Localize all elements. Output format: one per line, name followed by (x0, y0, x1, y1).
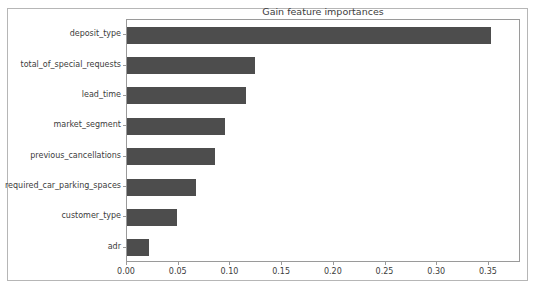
x-tick-label-0.30: 0.30 (416, 266, 456, 278)
x-tick-mark (333, 262, 334, 265)
x-tick-mark (436, 262, 437, 265)
x-tick-mark (178, 262, 179, 265)
x-tick-label-0.05: 0.05 (158, 266, 198, 278)
x-tick-label-0.25: 0.25 (365, 266, 405, 278)
x-tick-mark (281, 262, 282, 265)
chart-screenshot: Gain feature importances deposit_typetot… (0, 0, 534, 292)
x-axis-labels: 0.000.050.100.150.200.250.300.35 (0, 0, 534, 292)
x-tick-label-0.20: 0.20 (313, 266, 353, 278)
x-tick-label-0.35: 0.35 (468, 266, 508, 278)
x-tick-mark (488, 262, 489, 265)
x-tick-mark (229, 262, 230, 265)
x-tick-label-0.10: 0.10 (209, 266, 249, 278)
x-tick-label-0.15: 0.15 (261, 266, 301, 278)
x-tick-label-0.00: 0.00 (106, 266, 146, 278)
x-tick-mark (385, 262, 386, 265)
x-tick-mark (126, 262, 127, 265)
